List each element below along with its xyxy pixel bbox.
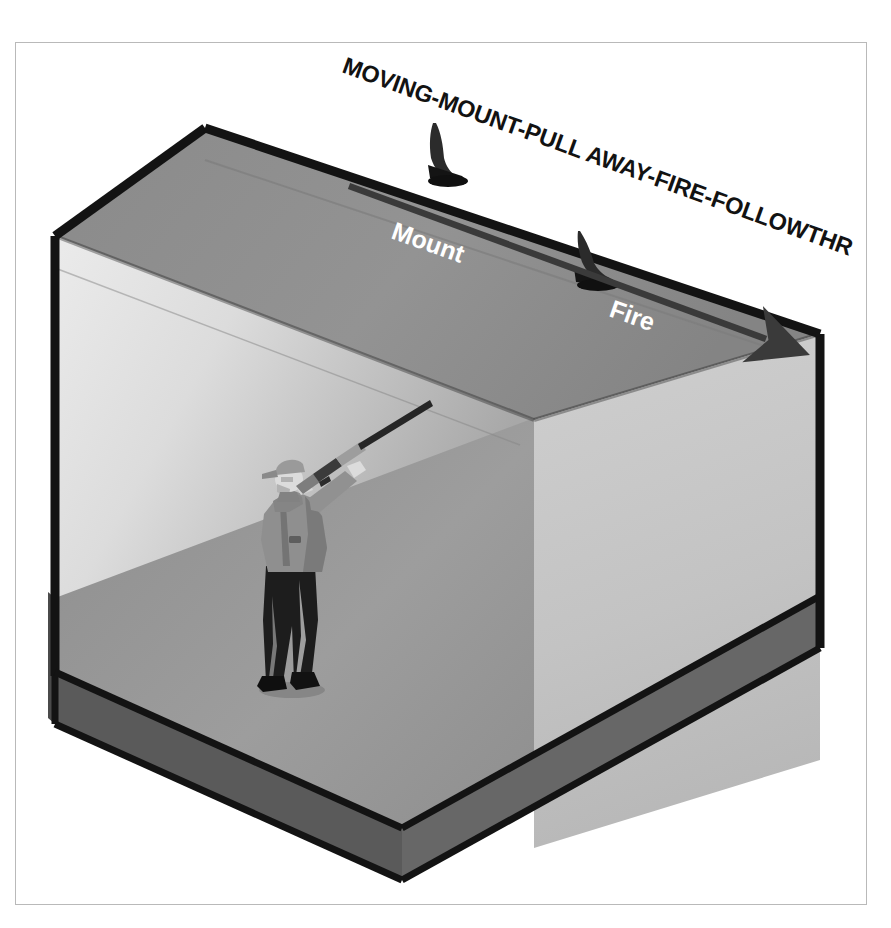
clay-target-mount (428, 123, 468, 187)
shooting-box-scene: Mount Fire MOVING-MOUNT-PULL AWAY-FIRE-F… (0, 0, 891, 928)
shooter-collar (277, 492, 300, 502)
scene-svg: Mount Fire MOVING-MOUNT-PULL AWAY-FIRE-F… (0, 0, 891, 928)
shooter-eye-shadow (281, 477, 293, 482)
clay-target-mount-base (428, 175, 468, 187)
diagram-page: Mount Fire MOVING-MOUNT-PULL AWAY-FIRE-F… (0, 0, 891, 928)
shooter-chest-patch (289, 536, 301, 543)
